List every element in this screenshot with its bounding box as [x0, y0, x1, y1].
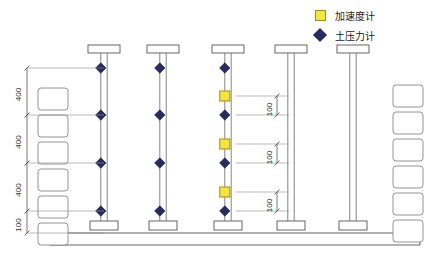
column-5-cap-plate [337, 45, 369, 53]
column-1-base-plate [90, 221, 118, 230]
column-3-earth-pressure-gauge-4 [220, 206, 230, 216]
left-soil-block [38, 88, 68, 110]
left-soil-block [38, 196, 68, 218]
left-soil-block [38, 115, 68, 137]
foundation-slab [50, 233, 420, 245]
column-3-earth-pressure-gauge-3 [220, 158, 230, 168]
left-soil-block [38, 223, 68, 245]
left-dimension-label-3: 400 [14, 183, 23, 197]
legend-item-earth-pressure-gauge: 土压力计 [309, 26, 429, 44]
column-1-cap-plate [88, 45, 120, 53]
column-2-earth-pressure-gauge-2 [155, 110, 165, 120]
column-5-base-plate [339, 221, 367, 230]
legend-label-accelerometer: 加速度计 [335, 8, 375, 23]
left-dimension-label-4: 100 [14, 218, 23, 232]
earth-pressure-gauge-icon [313, 28, 327, 42]
legend: 加速度计 土压力计 [309, 6, 429, 46]
column-3-earth-pressure-gauge-1 [220, 63, 230, 73]
column-3-earth-pressure-gauge-2 [220, 110, 230, 120]
left-dimension-label-1: 400 [14, 87, 23, 101]
column-3-accelerometer-2 [220, 139, 230, 149]
figure-canvas: 400400400100100100100 加速度计 土压力计 [0, 0, 435, 259]
left-soil-block [38, 142, 68, 164]
column-2-earth-pressure-gauge-1 [155, 63, 165, 73]
inner-dimension-label-1: 100 [265, 102, 274, 116]
inner-dimension-label-3: 100 [265, 198, 274, 212]
column-4-cap-plate [275, 45, 307, 53]
legend-label-earth-pressure-gauge: 土压力计 [335, 28, 375, 43]
column-3-base-plate [214, 221, 242, 230]
column-2-earth-pressure-gauge-4 [155, 206, 165, 216]
legend-swatch-wrap [309, 30, 331, 40]
right-soil-block [393, 193, 423, 215]
legend-swatch-wrap [309, 10, 331, 21]
right-soil-block [393, 166, 423, 188]
right-soil-block [393, 220, 423, 242]
column-2-base-plate [149, 221, 177, 230]
column-3-cap-plate [212, 45, 244, 53]
right-soil-block [393, 139, 423, 161]
left-dimension-label-2: 400 [14, 135, 23, 149]
right-soil-block [393, 112, 423, 134]
left-soil-block [38, 169, 68, 191]
right-soil-block [393, 85, 423, 107]
column-2-earth-pressure-gauge-3 [155, 158, 165, 168]
legend-item-accelerometer: 加速度计 [309, 6, 429, 24]
column-4-base-plate [277, 221, 305, 230]
accelerometer-icon [315, 10, 326, 21]
column-3-accelerometer-1 [220, 91, 230, 101]
column-3-accelerometer-3 [220, 187, 230, 197]
column-2-cap-plate [147, 45, 179, 53]
inner-dimension-label-2: 100 [265, 150, 274, 164]
